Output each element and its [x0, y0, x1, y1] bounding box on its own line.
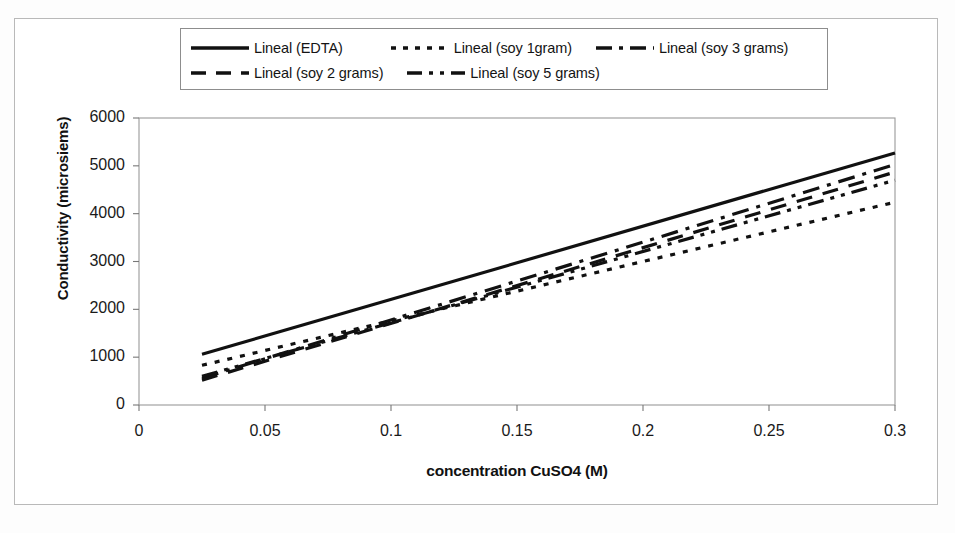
figure-canvas: Lineal (EDTA) Lineal (soy 1gram) [0, 0, 955, 533]
line-style-dash-dot-dot-icon [405, 67, 467, 79]
legend-row-2: Lineal (soy 2 grams) Lineal (soy 5 grams… [189, 60, 819, 85]
legend-item-soy-3grams[interactable]: Lineal (soy 3 grams) [594, 40, 788, 56]
scanned-page-frame [14, 18, 938, 505]
legend-item-soy-1gram[interactable]: Lineal (soy 1gram) [389, 40, 572, 56]
page-bottom-artifact [470, 519, 940, 532]
legend-label-soy-3grams: Lineal (soy 3 grams) [659, 40, 788, 56]
chart-legend: Lineal (EDTA) Lineal (soy 1gram) [180, 28, 828, 90]
legend-item-soy-5grams[interactable]: Lineal (soy 5 grams) [405, 65, 599, 81]
legend-label-soy-5grams: Lineal (soy 5 grams) [470, 65, 599, 81]
legend-label-edta: Lineal (EDTA) [254, 40, 343, 56]
legend-label-soy-1gram: Lineal (soy 1gram) [454, 40, 572, 56]
line-style-dashed-icon [189, 67, 251, 79]
legend-row-1: Lineal (EDTA) Lineal (soy 1gram) [189, 35, 819, 60]
line-style-solid-icon [189, 42, 251, 54]
legend-label-soy-2grams: Lineal (soy 2 grams) [254, 65, 383, 81]
legend-item-soy-2grams[interactable]: Lineal (soy 2 grams) [189, 65, 383, 81]
line-style-dotted-icon [389, 42, 451, 54]
line-style-dash-dot-icon [594, 42, 656, 54]
legend-item-edta[interactable]: Lineal (EDTA) [189, 40, 343, 56]
